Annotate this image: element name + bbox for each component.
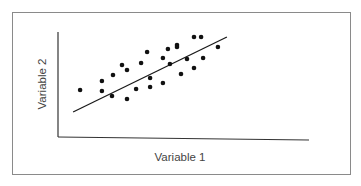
data-point <box>111 73 116 78</box>
data-point <box>185 57 190 62</box>
data-point <box>148 85 153 90</box>
trend-line <box>73 37 227 112</box>
data-point <box>166 47 171 52</box>
data-point <box>125 97 130 102</box>
data-point <box>125 68 130 73</box>
data-points <box>78 35 220 102</box>
scatter-chart: Variable 1 Variable 2 <box>0 0 361 186</box>
data-point <box>201 56 206 61</box>
x-axis-label: Variable 1 <box>155 151 206 163</box>
data-point <box>78 88 83 93</box>
data-point <box>148 76 153 81</box>
x-axis <box>58 137 309 140</box>
data-point <box>139 61 144 66</box>
data-point <box>100 79 105 84</box>
data-point <box>199 35 204 40</box>
data-point <box>175 45 180 50</box>
data-point <box>161 56 166 61</box>
y-axis-label: Variable 2 <box>36 59 48 110</box>
data-point <box>192 66 197 71</box>
data-point <box>145 50 150 55</box>
data-point <box>110 94 115 99</box>
data-point <box>120 63 125 68</box>
data-point <box>179 72 184 77</box>
data-point <box>134 87 139 92</box>
data-point <box>192 35 197 40</box>
data-point <box>216 45 221 50</box>
data-point <box>100 89 105 94</box>
data-point <box>168 62 173 67</box>
data-point <box>161 81 166 86</box>
